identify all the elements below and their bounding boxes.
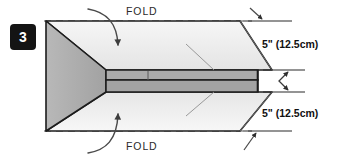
fold-label-bottom: FOLD [126,140,158,152]
dimension-label-top: 5" (12.5cm) [262,38,318,50]
dimension-label-bottom: 5" (12.5cm) [262,107,318,119]
step-number-badge: 3 [10,24,36,50]
center-band-lower [106,80,258,92]
fold-label-top: FOLD [126,5,158,17]
fold-instruction-diagram: FOLD FOLD 5" (12.5cm) 5" (12.5cm) 3 [0,0,342,162]
step-badge-label: 3 [19,29,27,45]
diagram-canvas: FOLD FOLD 5" (12.5cm) 5" (12.5cm) 3 [0,0,342,162]
center-band-upper [106,70,258,80]
